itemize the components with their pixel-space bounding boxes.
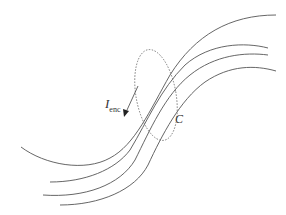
- field-line-1: [21, 15, 276, 165]
- current-label: Ienc: [105, 96, 120, 114]
- diagram-canvas: [0, 0, 286, 215]
- loop-label: C: [175, 112, 183, 127]
- current-line: [127, 86, 138, 110]
- current-label-sub: enc: [109, 105, 120, 114]
- field-line-3: [43, 54, 268, 195]
- field-line-4: [60, 67, 276, 205]
- amperian-loop: [128, 46, 183, 144]
- current-arrow-icon: [123, 109, 129, 117]
